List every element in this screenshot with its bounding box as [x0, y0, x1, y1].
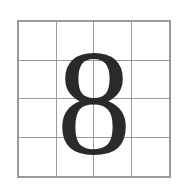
- digit-glyph: 8: [17, 24, 171, 182]
